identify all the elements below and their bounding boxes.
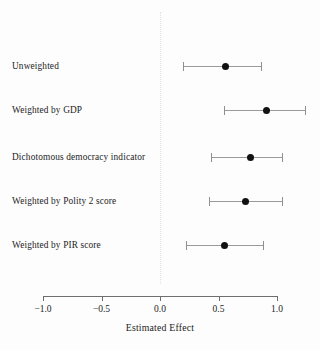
x-axis: −1.0−0.50.00.51.0 Estimated Effect bbox=[0, 296, 320, 350]
confidence-interval bbox=[224, 99, 306, 121]
x-axis-tick bbox=[277, 296, 278, 301]
estimate-row: Unweighted bbox=[0, 55, 320, 77]
interval-cap-lower bbox=[186, 241, 187, 250]
estimate-row: Weighted by Polity 2 score bbox=[0, 190, 320, 212]
estimate-row-label: Dichotomous democracy indicator bbox=[12, 146, 145, 168]
estimate-row-label: Weighted by PIR score bbox=[12, 234, 101, 256]
interval-cap-upper bbox=[261, 62, 262, 71]
forest-plot-figure: UnweightedWeighted by GDPDichotomous dem… bbox=[0, 0, 320, 350]
point-estimate-marker bbox=[222, 63, 229, 70]
interval-cap-lower bbox=[183, 62, 184, 71]
point-estimate-marker bbox=[263, 107, 270, 114]
estimate-row: Weighted by GDP bbox=[0, 99, 320, 121]
x-axis-tick-label: 0.5 bbox=[213, 304, 225, 314]
point-estimate-marker bbox=[221, 242, 228, 249]
interval-cap-lower bbox=[209, 197, 210, 206]
interval-cap-upper bbox=[305, 106, 306, 115]
confidence-interval bbox=[211, 146, 282, 168]
estimate-row-label: Unweighted bbox=[12, 55, 59, 77]
x-axis-tick-label: −1.0 bbox=[34, 304, 51, 314]
interval-cap-upper bbox=[263, 241, 264, 250]
interval-cap-upper bbox=[282, 153, 283, 162]
estimate-row: Weighted by PIR score bbox=[0, 234, 320, 256]
x-axis-tick bbox=[43, 296, 44, 301]
point-estimate-marker bbox=[242, 198, 249, 205]
point-estimate-marker bbox=[247, 154, 254, 161]
x-axis-tick-label: −0.5 bbox=[93, 304, 110, 314]
x-axis-tick bbox=[160, 296, 161, 301]
estimate-row-label: Weighted by Polity 2 score bbox=[12, 190, 116, 212]
plot-area: UnweightedWeighted by GDPDichotomous dem… bbox=[0, 0, 320, 300]
interval-cap-lower bbox=[224, 106, 225, 115]
interval-cap-upper bbox=[282, 197, 283, 206]
confidence-interval bbox=[183, 55, 261, 77]
x-axis-title: Estimated Effect bbox=[0, 322, 320, 333]
confidence-interval bbox=[209, 190, 283, 212]
x-axis-tick-label: 1.0 bbox=[271, 304, 283, 314]
estimate-row: Dichotomous democracy indicator bbox=[0, 146, 320, 168]
x-axis-tick-label: 0.0 bbox=[154, 304, 166, 314]
confidence-interval bbox=[186, 234, 264, 256]
x-axis-tick bbox=[219, 296, 220, 301]
x-axis-tick bbox=[102, 296, 103, 301]
estimate-row-label: Weighted by GDP bbox=[12, 99, 82, 121]
interval-cap-lower bbox=[211, 153, 212, 162]
